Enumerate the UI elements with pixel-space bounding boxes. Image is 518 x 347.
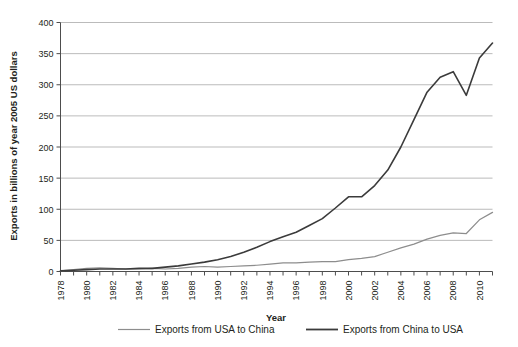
x-axis-title: Year	[266, 312, 286, 323]
x-tick-label: 2006	[422, 281, 432, 301]
x-tick-label: 1990	[213, 281, 223, 301]
legend-label-0: Exports from USA to China	[155, 324, 275, 335]
y-tick-label: 0	[48, 267, 53, 277]
x-tick-label: 2000	[344, 281, 354, 301]
legend-label-1: Exports from China to USA	[343, 324, 463, 335]
y-axis-title: Exports in billions of year 2005 US doll…	[8, 51, 19, 241]
y-tick-label: 100	[38, 205, 53, 215]
x-tick-label: 2002	[370, 281, 380, 301]
chart-background	[0, 0, 518, 347]
x-tick-label: 2004	[396, 281, 406, 301]
x-tick-label: 1984	[134, 281, 144, 301]
x-tick-label: 1998	[318, 281, 328, 301]
y-tick-label: 200	[38, 143, 53, 153]
y-tick-label: 350	[38, 49, 53, 59]
chart-figure: 050100150200250300350400 197819801982198…	[0, 0, 518, 347]
x-tick-label: 1978	[56, 281, 66, 301]
x-tick-label: 1988	[187, 281, 197, 301]
x-tick-label: 1992	[239, 281, 249, 301]
y-tick-label: 250	[38, 111, 53, 121]
x-tick-label: 1982	[108, 281, 118, 301]
y-tick-label: 300	[38, 80, 53, 90]
x-tick-label: 1996	[291, 281, 301, 301]
x-tick-label: 2010	[475, 281, 485, 301]
line-chart: 050100150200250300350400 197819801982198…	[0, 0, 518, 347]
x-tick-label: 2008	[448, 281, 458, 301]
x-tick-label: 1980	[82, 281, 92, 301]
x-tick-label: 1986	[160, 281, 170, 301]
y-tick-label: 400	[38, 18, 53, 28]
y-tick-label: 50	[43, 236, 53, 246]
x-tick-label: 1994	[265, 281, 275, 301]
y-tick-label: 150	[38, 174, 53, 184]
